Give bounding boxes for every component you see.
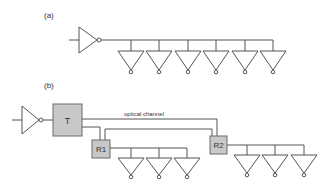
load-buffer bbox=[118, 148, 144, 179]
transmitter-T: T bbox=[53, 104, 82, 136]
load-buffer bbox=[118, 40, 144, 74]
transmitter-label: T bbox=[65, 116, 71, 126]
load-buffer bbox=[262, 145, 288, 177]
label-part-b: (b) bbox=[44, 81, 54, 90]
receiver-R2: R2 bbox=[210, 136, 227, 154]
load-buffer bbox=[234, 145, 260, 177]
driver-buffer-b bbox=[12, 106, 53, 134]
driver-buffer-a bbox=[69, 27, 101, 53]
receiver1-label: R1 bbox=[96, 145, 107, 154]
load-buffer bbox=[175, 40, 201, 74]
label-part-a: (a) bbox=[44, 11, 54, 20]
load-buffer bbox=[232, 40, 258, 74]
load-buffer bbox=[260, 40, 286, 74]
loads-r1 bbox=[110, 148, 200, 179]
receiver-R1: R1 bbox=[92, 140, 110, 158]
load-buffer bbox=[291, 145, 317, 177]
load-buffer bbox=[146, 40, 172, 74]
optical-channel bbox=[82, 119, 217, 140]
optical-channel-label: optical channel bbox=[124, 111, 164, 117]
load-buffer bbox=[174, 148, 200, 179]
clock-distribution-diagram: (a) (b) T optical channel R1 bbox=[0, 0, 333, 187]
loads-r2 bbox=[227, 145, 317, 177]
load-buffer bbox=[146, 148, 172, 179]
load-buffer bbox=[203, 40, 229, 74]
loads-a bbox=[118, 40, 286, 74]
receiver2-label: R2 bbox=[213, 141, 224, 150]
